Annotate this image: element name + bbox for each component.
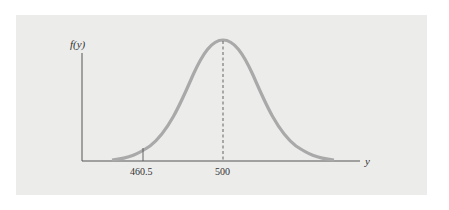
x-axis-label: y — [364, 155, 370, 167]
normal-curve-figure: f(y) y 460.5 500 — [0, 0, 449, 210]
y-axis-label: f(y) — [70, 38, 86, 51]
tick-label-460-5: 460.5 — [130, 166, 153, 177]
tick-label-500: 500 — [215, 166, 230, 177]
